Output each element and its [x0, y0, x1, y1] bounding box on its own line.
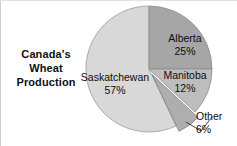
slice-label-saskatchewan: Saskatchewan 57%: [76, 71, 154, 96]
slice-label-manitoba-name: Manitoba: [155, 69, 215, 82]
slice-label-manitoba: Manitoba 12%: [155, 69, 215, 94]
chart-title-line-1: Canada's: [4, 47, 88, 61]
slice-label-other-name: Other: [196, 110, 234, 123]
slice-label-manitoba-value: 12%: [155, 82, 215, 95]
slice-label-saskatchewan-value: 57%: [76, 84, 154, 97]
slice-label-other: Other 6%: [196, 110, 234, 135]
chart-canvas: Canada's Wheat Production Alberta 25% Ma…: [0, 0, 237, 146]
slice-label-saskatchewan-name: Saskatchewan: [76, 71, 154, 84]
slice-label-other-value: 6%: [196, 123, 234, 136]
slice-label-alberta: Alberta 25%: [158, 32, 212, 57]
slice-label-alberta-value: 25%: [158, 45, 212, 58]
slice-label-alberta-name: Alberta: [158, 32, 212, 45]
